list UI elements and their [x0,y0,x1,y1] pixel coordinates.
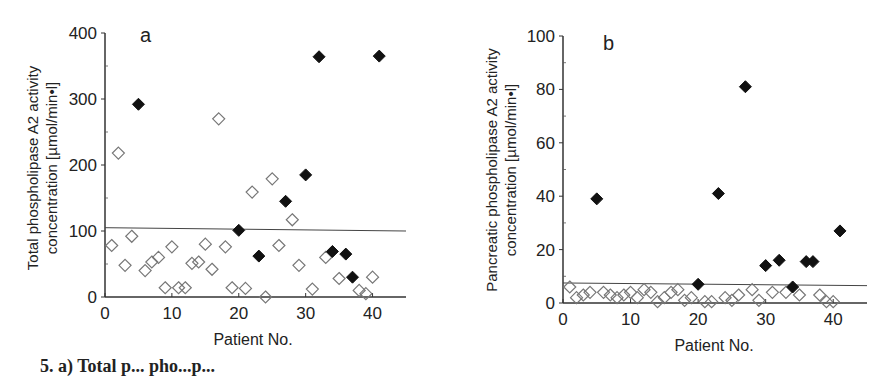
y-tick-label: 0 [88,288,97,307]
open-diamond-point [106,240,118,252]
open-diamond-point [206,263,218,275]
filled-diamond-point [253,250,265,262]
filled-diamond-point [340,248,352,260]
open-diamond-point [239,282,251,294]
open-diamond-point [367,271,379,283]
y-tick-label: 80 [536,80,555,99]
y-tick-label: 60 [536,134,555,153]
figure-caption: 5. a) Total p... pho...p... [40,356,215,377]
open-diamond-point [306,283,318,295]
open-diamond-point [166,241,178,253]
open-diamond-point [159,282,171,294]
open-diamond-point [273,240,285,252]
filled-diamond-point [300,169,312,181]
chart-panel-b: Pancreatic phospholipase A2 activity con… [440,0,876,367]
open-diamond-point [733,289,745,301]
filled-diamond-point [807,256,819,268]
x-tick-label: 0 [558,310,567,329]
y-axis-title-line1: Total phospholipase A2 activity [24,65,41,270]
plot-area: 0100200300400010203040 [69,24,406,323]
threshold-line [563,283,867,286]
plot-area: 020406080100010203040 [527,27,867,329]
y-tick-label: 0 [546,294,555,313]
y-tick-label: 200 [69,156,97,175]
filled-diamond-point [313,51,325,63]
y-tick-label: 40 [536,187,555,206]
scatter-plot-b: Pancreatic phospholipase A2 activity con… [440,0,876,367]
filled-diamond-point [591,193,603,205]
open-diamond-point [112,147,124,159]
panel-label: a [140,24,152,46]
open-diamond-point [293,259,305,271]
filled-diamond-point [326,245,338,257]
open-diamond-point [213,113,225,125]
y-axis-title-line2: concentration [µmol/min•l] [43,82,60,254]
open-diamond-point [219,241,231,253]
filled-diamond-point [346,271,358,283]
filled-diamond-point [280,195,292,207]
open-diamond-point [286,214,298,226]
x-tick-label: 10 [621,310,640,329]
open-diamond-point [146,256,158,268]
open-diamond-point [226,282,238,294]
y-axis-title-line1: Pancreatic phospholipase A2 activity [483,48,500,292]
x-tick-label: 30 [756,310,775,329]
open-diamond-point [153,251,165,263]
open-diamond-point [139,265,151,277]
threshold-line [105,228,406,231]
y-tick-label: 300 [69,90,97,109]
y-tick-label: 100 [69,222,97,241]
filled-diamond-point [712,188,724,200]
filled-diamond-point [773,254,785,266]
x-tick-label: 40 [824,310,843,329]
open-diamond-point [746,284,758,296]
filled-diamond-point [132,98,144,110]
chart-panel-a: Total phospholipase A2 activity concentr… [0,0,440,367]
filled-diamond-point [692,278,704,290]
panel-label: b [603,32,614,54]
x-tick-label: 20 [229,304,248,323]
open-diamond-point [753,294,765,306]
filled-diamond-point [834,225,846,237]
x-axis-title: Patient No. [213,331,292,348]
x-tick-label: 10 [162,304,181,323]
x-axis-title: Patient No. [674,337,753,354]
filled-diamond-point [373,50,385,62]
x-tick-label: 0 [100,304,109,323]
y-tick-label: 20 [536,241,555,260]
y-tick-label: 100 [527,27,555,46]
open-diamond-point [246,186,258,198]
open-diamond-point [766,286,778,298]
filled-diamond-point [760,260,772,272]
scatter-plot-a: Total phospholipase A2 activity concentr… [0,0,440,367]
x-tick-label: 40 [363,304,382,323]
y-tick-label: 400 [69,24,97,43]
open-diamond-point [199,238,211,250]
y-axis-title-line2: concentration [µmol/min•l] [502,84,519,256]
filled-diamond-point [233,224,245,236]
x-tick-label: 30 [296,304,315,323]
open-diamond-point [126,230,138,242]
open-diamond-point [814,289,826,301]
x-tick-label: 20 [689,310,708,329]
open-diamond-point [266,173,278,185]
open-diamond-point [119,259,131,271]
filled-diamond-point [739,81,751,93]
open-diamond-point [333,273,345,285]
